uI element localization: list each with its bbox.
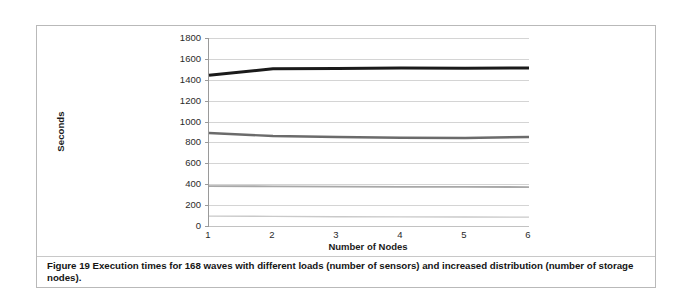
series-line-2500: [209, 216, 529, 217]
x-axis-title: Number of Nodes: [208, 241, 528, 252]
x-axis-tick-label: 4: [385, 229, 415, 240]
y-axis-tick-label: 1600: [157, 54, 201, 64]
y-axis-tick-label: 800: [157, 138, 201, 148]
y-axis-tick-label: 1000: [157, 117, 201, 127]
gridline: [209, 226, 529, 227]
y-axis-tick-label: 600: [157, 159, 201, 169]
y-axis-tick-label: 1400: [157, 75, 201, 85]
y-axis-tick-label: 1200: [157, 96, 201, 106]
series-layer: [209, 38, 529, 226]
series-line-22500: [209, 133, 529, 138]
y-axis-tick-label: 200: [157, 200, 201, 210]
y-axis-tick-labels: 020040060080010001200140016001800: [157, 38, 201, 226]
x-axis-tick-label: 3: [321, 229, 351, 240]
figure-frame: Seconds 02004006008001000120014001600180…: [36, 25, 656, 288]
y-axis-tickmark: [205, 226, 209, 227]
plot-area: [208, 38, 529, 226]
y-axis-tick-label: 400: [157, 179, 201, 189]
x-axis-tick-label: 6: [513, 229, 543, 240]
chart-area: Seconds 02004006008001000120014001600180…: [37, 26, 657, 256]
y-axis-title: Seconds: [55, 87, 66, 177]
y-axis-tick-label: 1800: [157, 33, 201, 43]
figure-caption: Figure 19 Execution times for 168 waves …: [37, 260, 655, 284]
x-axis-tick-label: 5: [449, 229, 479, 240]
caption-band: Figure 19 Execution times for 168 waves …: [37, 256, 655, 287]
series-line-40000: [209, 68, 529, 75]
x-axis-tick-label: 1: [193, 229, 223, 240]
x-axis-tick-label: 2: [257, 229, 287, 240]
series-line-10000: [209, 186, 529, 187]
